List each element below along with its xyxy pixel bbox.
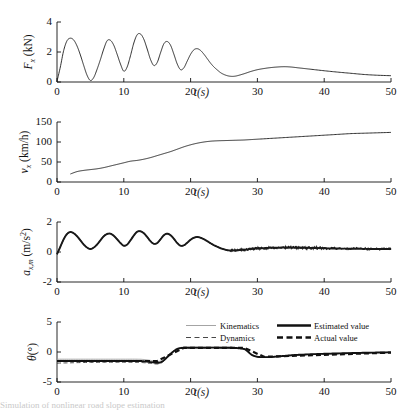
subplot-measured-acceleration: ax,m (m/s2) -2 0 2 0 10 2	[0, 200, 403, 300]
theta-y-ticks	[57, 322, 61, 382]
acceleration-plot-svg: ax,m (m/s2) -2 0 2 0 10 2	[0, 200, 403, 300]
legend-label-kinematics: Kinematics	[220, 321, 260, 331]
legend-label-dynamics: Dynamics	[220, 333, 256, 343]
theta-plot-svg: θ(°) -5 0 5 0 10 20	[0, 300, 403, 400]
velocity-x-ticks	[57, 178, 391, 182]
figure-root: Fx (kN) 0 2 4 0	[0, 0, 403, 412]
legend-label-actual-value: Actual value	[314, 333, 358, 343]
figure-caption-fragment: Simulation of nonlinear road slope estim…	[0, 400, 403, 412]
velocity-ytick-100: 100	[36, 135, 53, 147]
theta-ytick-0: 0	[47, 345, 53, 357]
force-ytick-4: 4	[47, 15, 53, 27]
force-x-axis-label: t(s)	[0, 86, 403, 98]
velocity-ytick-150: 150	[36, 115, 53, 127]
force-plot-svg: Fx (kN) 0 2 4 0	[0, 0, 403, 100]
velocity-y-ticks	[57, 122, 61, 182]
svg-text:θ(°): θ(°)	[26, 343, 39, 361]
acceleration-y-axis-label: ax,m (m/s2)	[19, 228, 35, 276]
subplot-longitudinal-velocity: vx (km/h) 0 50 100 150	[0, 100, 403, 200]
velocity-series-line	[70, 132, 391, 174]
acceleration-x-axis-label: t(s)	[0, 286, 403, 298]
force-x-ticks	[57, 78, 391, 82]
svg-text:Fx (kN): Fx (kN)	[22, 34, 37, 70]
velocity-plot-svg: vx (km/h) 0 50 100 150	[0, 100, 403, 200]
velocity-y-axis-label: vx (km/h)	[18, 130, 33, 173]
theta-x-axis-label: t(s)	[0, 386, 403, 398]
velocity-ytick-50: 50	[41, 155, 53, 167]
acceleration-x-ticks	[57, 278, 391, 282]
force-y-axis-label: Fx (kN)	[22, 34, 37, 70]
svg-text:vx (km/h): vx (km/h)	[18, 130, 33, 173]
theta-y-axis-label: θ(°)	[26, 343, 39, 361]
svg-text:ax,m (m/s2): ax,m (m/s2)	[19, 228, 35, 276]
force-series-line	[57, 34, 391, 82]
acceleration-ytick-2: 2	[47, 215, 53, 227]
theta-legend: Kinematics Estimated value Dynamics Actu…	[186, 321, 369, 343]
theta-x-ticks	[57, 378, 391, 382]
subplot-longitudinal-force: Fx (kN) 0 2 4 0	[0, 0, 403, 100]
theta-ytick-5: 5	[47, 315, 53, 327]
force-ytick-2: 2	[47, 45, 53, 57]
acceleration-series-line	[57, 231, 391, 254]
legend-label-estimated-value: Estimated value	[314, 321, 369, 331]
velocity-x-axis-label: t(s)	[0, 186, 403, 198]
acceleration-ytick-0: 0	[47, 245, 53, 257]
subplot-road-slope-angle: θ(°) -5 0 5 0 10 20	[0, 300, 403, 400]
